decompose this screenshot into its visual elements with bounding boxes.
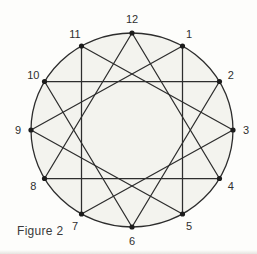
clock-circle — [31, 33, 233, 227]
figure-caption: Figure 2 — [17, 224, 63, 238]
scanned-book-page: 121234567891011 Figure 2 — [0, 0, 257, 254]
vertex-label-8: 8 — [30, 180, 36, 192]
clock-star-diagram: 121234567891011 — [0, 0, 257, 254]
vertex-label-2: 2 — [228, 69, 234, 81]
vertex-label-11: 11 — [69, 28, 80, 40]
vertex-dot-10 — [42, 79, 47, 84]
vertex-dot-1 — [180, 43, 185, 48]
vertex-label-1: 1 — [186, 28, 192, 40]
vertex-dot-2 — [217, 79, 222, 84]
vertex-label-12: 12 — [126, 13, 138, 25]
vertex-label-9: 9 — [15, 124, 21, 136]
vertex-label-6: 6 — [129, 235, 135, 247]
vertex-label-10: 10 — [27, 69, 39, 81]
vertex-dot-5 — [180, 211, 185, 216]
vertex-dot-11 — [79, 43, 84, 48]
vertex-label-4: 4 — [228, 180, 234, 192]
vertex-label-5: 5 — [186, 220, 192, 232]
vertex-label-3: 3 — [243, 124, 249, 136]
vertex-dot-8 — [42, 176, 47, 181]
vertex-dot-4 — [217, 176, 222, 181]
vertex-dot-3 — [230, 127, 235, 132]
vertex-dot-6 — [129, 224, 134, 229]
vertex-dot-7 — [79, 211, 84, 216]
page-edge-shadow — [0, 250, 257, 254]
vertex-label-7: 7 — [72, 220, 78, 232]
vertex-dot-12 — [129, 30, 134, 35]
vertex-dot-9 — [28, 127, 33, 132]
